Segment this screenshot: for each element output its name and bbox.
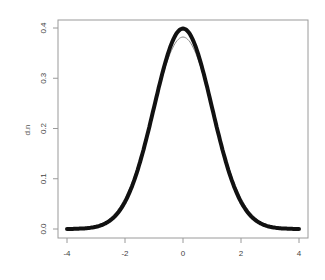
plot-box — [58, 20, 308, 238]
x-tick-label: 4 — [297, 249, 302, 258]
density-plot: 0.00.10.20.30.4 -4-2024 d.n — [0, 0, 325, 280]
y-tick-label: 0.1 — [39, 173, 48, 185]
plot-frame — [58, 20, 308, 238]
y-tick-label: 0.2 — [39, 122, 48, 134]
y-tick-label: 0.3 — [39, 72, 48, 84]
y-tick-label: 0.4 — [39, 22, 48, 34]
series-layer — [67, 29, 299, 229]
x-tick-label: -2 — [121, 249, 129, 258]
x-tick-label: 2 — [239, 249, 244, 258]
y-tick-label: 0.0 — [39, 223, 48, 235]
kde-line — [67, 37, 299, 229]
y-axis-label: d.n — [23, 124, 32, 135]
x-tick-label: 0 — [181, 249, 186, 258]
y-axis: 0.00.10.20.30.4 — [39, 22, 58, 235]
x-tick-label: -4 — [63, 249, 71, 258]
density-points — [67, 29, 299, 229]
x-axis: -4-2024 — [63, 238, 301, 258]
